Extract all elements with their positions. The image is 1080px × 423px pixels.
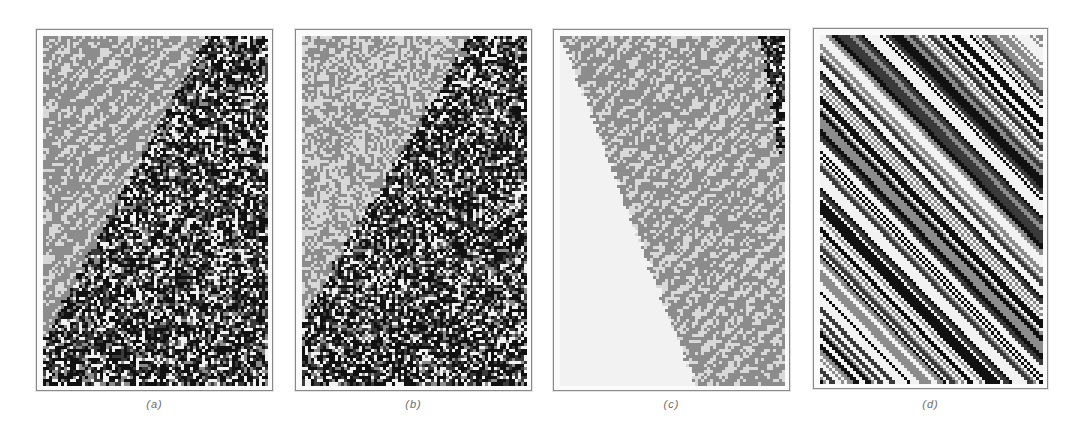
caption-b: (b) bbox=[384, 398, 444, 410]
panel-b bbox=[295, 29, 532, 391]
automaton-pattern-d bbox=[820, 35, 1043, 384]
panel-d bbox=[813, 28, 1048, 389]
automaton-pattern-c bbox=[560, 36, 785, 386]
automaton-pattern-b bbox=[302, 36, 527, 386]
panel-a bbox=[36, 29, 273, 391]
automaton-pattern-a bbox=[43, 36, 268, 386]
caption-c: (c) bbox=[642, 398, 702, 410]
panel-c bbox=[553, 29, 790, 391]
caption-d: (d) bbox=[901, 398, 961, 410]
caption-a: (a) bbox=[125, 398, 185, 410]
